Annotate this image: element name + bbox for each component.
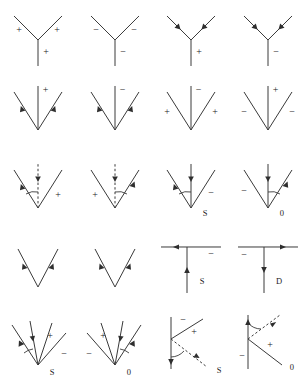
corner-label: 0 bbox=[289, 362, 293, 372]
arrowhead-stem-down bbox=[112, 177, 118, 182]
sign-right: + bbox=[54, 24, 60, 35]
sign-bottom: − bbox=[239, 350, 245, 361]
panel-r4c3-drawing: − S bbox=[153, 235, 230, 313]
sign-branch: + bbox=[191, 326, 197, 337]
sign-stem: − bbox=[273, 46, 279, 57]
sign-right: + bbox=[212, 106, 218, 117]
panel-r3c4-drawing: − 0 bbox=[230, 156, 307, 234]
panel-r5c1-drawing: + − S bbox=[0, 313, 77, 391]
sign-top: − bbox=[180, 314, 186, 325]
corner-label: S bbox=[50, 367, 55, 377]
sign-stem: + bbox=[196, 46, 202, 57]
sign-right: − bbox=[289, 106, 295, 117]
panel-r4c2-drawing bbox=[77, 235, 154, 313]
arrowhead-stem-down bbox=[188, 177, 194, 182]
panel-r3c2-drawing: + bbox=[77, 156, 154, 234]
arrowhead-stem-up bbox=[245, 319, 251, 325]
panel-r2c1-drawing: + bbox=[0, 78, 77, 156]
panel-r4c1 bbox=[0, 235, 77, 313]
corner-label: D bbox=[275, 276, 281, 286]
arrowhead-dashed-inward bbox=[193, 353, 199, 358]
arrowhead-dashed-inward bbox=[269, 322, 275, 327]
panel-r2c4-drawing: − − + bbox=[230, 78, 307, 156]
panel-r5c3: − + S bbox=[153, 313, 230, 391]
sign-left: + bbox=[16, 24, 22, 35]
arrowhead-right-outward bbox=[282, 182, 288, 188]
sign-right: − bbox=[208, 248, 214, 259]
panel-r3c3-drawing: − S bbox=[153, 156, 230, 234]
panel-r1c3: + bbox=[153, 0, 230, 78]
panel-r2c1: + bbox=[0, 78, 77, 156]
panel-r2c2-drawing: − bbox=[77, 78, 154, 156]
panel-r1c1: + + + bbox=[0, 0, 77, 78]
sign-right: − bbox=[208, 188, 214, 199]
sign-stem: + bbox=[43, 46, 49, 57]
panel-r3c3: − S bbox=[153, 156, 230, 234]
arrowhead-ray2-inward bbox=[30, 336, 35, 342]
sign-ray1: − bbox=[86, 348, 92, 359]
panel-r3c2: + bbox=[77, 156, 154, 234]
sign-stem: + bbox=[272, 84, 278, 95]
arrowhead-horizontal-left bbox=[173, 244, 179, 249]
sign-left: + bbox=[164, 106, 170, 117]
panel-r1c1-drawing: + + + bbox=[0, 0, 77, 78]
arrowhead-right-outward bbox=[129, 182, 135, 188]
sign-left: − bbox=[93, 24, 99, 35]
panel-r3c4: − 0 bbox=[230, 156, 307, 234]
panel-r1c3-drawing: + bbox=[153, 0, 230, 78]
panel-r3c1-drawing: + bbox=[0, 156, 77, 234]
sign-stem: + bbox=[43, 84, 49, 95]
corner-label: S bbox=[217, 365, 222, 375]
panel-r3c1: + bbox=[0, 156, 77, 234]
panel-r1c2: − − − bbox=[77, 0, 154, 78]
panel-r4c3: − S bbox=[153, 235, 230, 313]
arrowhead-stem-down bbox=[261, 267, 267, 273]
panel-r5c1: + − S bbox=[0, 313, 77, 391]
vertex-diagram-figure: + + + − − − + bbox=[0, 0, 306, 391]
sign-left: − bbox=[241, 186, 247, 197]
panel-r2c4: − − + bbox=[230, 78, 307, 156]
sign-left: − bbox=[241, 106, 247, 117]
diagram-grid: + + + − − − + bbox=[0, 0, 306, 391]
sign-stem: − bbox=[119, 84, 125, 95]
panel-r5c2-drawing: − + 0 bbox=[77, 313, 154, 391]
sign-left: − bbox=[241, 249, 247, 260]
sign-ray2: + bbox=[100, 330, 106, 341]
sign-stem: − bbox=[120, 46, 126, 57]
panel-r4c2 bbox=[77, 235, 154, 313]
corner-label: 0 bbox=[126, 367, 130, 377]
panel-r2c2: − bbox=[77, 78, 154, 156]
arrowhead-horizontal-right bbox=[279, 244, 285, 249]
sign-ray4: − bbox=[61, 348, 67, 359]
arrowhead-stem-up bbox=[184, 267, 190, 273]
corner-label: 0 bbox=[279, 208, 283, 218]
panel-r4c4: − D bbox=[230, 235, 307, 313]
corner-label: S bbox=[200, 276, 205, 286]
sign-left: + bbox=[92, 190, 98, 201]
arrowhead-ray1-inward bbox=[19, 340, 25, 346]
sign-right: − bbox=[131, 24, 137, 35]
corner-label: S bbox=[203, 208, 208, 218]
panel-r5c4: − + 0 bbox=[230, 313, 307, 391]
panel-r2c3-drawing: + + − bbox=[153, 78, 230, 156]
panel-r5c3-drawing: − + S bbox=[153, 313, 230, 391]
panel-r1c2-drawing: − − − bbox=[77, 0, 154, 78]
panel-r5c2: − + 0 bbox=[77, 313, 154, 391]
arrowhead-stem-down bbox=[168, 359, 174, 365]
sign-branch: + bbox=[267, 339, 273, 350]
sign-stem: − bbox=[196, 84, 202, 95]
panel-r5c4-drawing: − + 0 bbox=[230, 313, 307, 391]
sign-ray3: + bbox=[47, 330, 53, 341]
panel-r4c4-drawing: − D bbox=[230, 235, 307, 313]
panel-r1c4-drawing: − bbox=[230, 0, 307, 78]
panel-r4c1-drawing bbox=[0, 235, 77, 313]
sign-right: + bbox=[55, 190, 61, 201]
arrowhead-stem-down bbox=[35, 177, 41, 182]
panel-r1c4: − bbox=[230, 0, 307, 78]
panel-r2c3: + + − bbox=[153, 78, 230, 156]
arrowhead-stem-down bbox=[265, 177, 271, 182]
